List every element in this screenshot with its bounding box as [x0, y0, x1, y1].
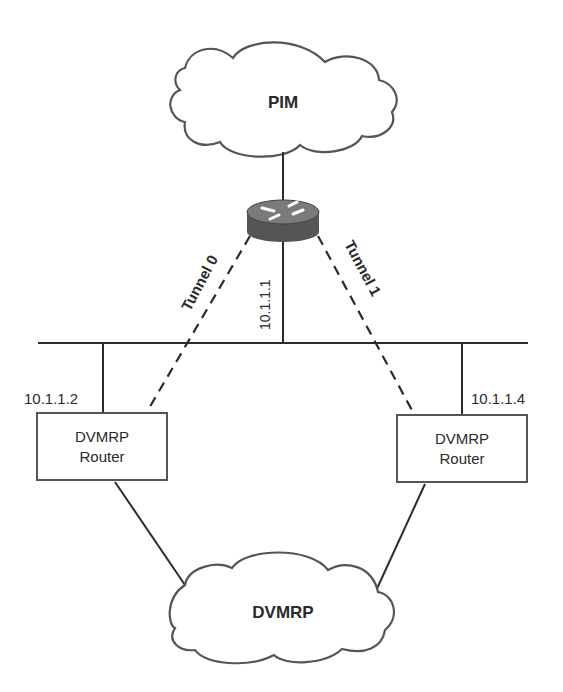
pim-label: PIM [268, 93, 298, 112]
left-router-ip: 10.1.1.2 [24, 390, 78, 407]
right-router-ip: 10.1.1.4 [471, 390, 525, 407]
right-router-cloud-link [375, 484, 425, 593]
tunnel-1-label: Tunnel 1 [341, 237, 384, 298]
tunnel-0-label: Tunnel 0 [178, 252, 221, 313]
dvmrp-cloud: DVMRP [170, 553, 394, 664]
pim-cloud: PIM [170, 42, 396, 156]
dvmrp-cloud-label: DVMRP [252, 603, 313, 622]
left-router-line2: Router [79, 448, 124, 465]
left-router-line1: DVMRP [75, 428, 129, 445]
network-diagram: PIM 10.1.1.1 Tunnel 0 Tunnel 1 10.1.1.2 … [0, 0, 563, 692]
right-router-line2: Router [439, 450, 484, 467]
router-icon [247, 200, 319, 242]
left-dvmrp-router: DVMRP Router [37, 413, 167, 480]
central-router-ip: 10.1.1.1 [257, 279, 273, 330]
right-dvmrp-router: DVMRP Router [397, 415, 527, 482]
right-router-line1: DVMRP [435, 430, 489, 447]
left-router-cloud-link [115, 482, 185, 585]
tunnel-0-line [148, 236, 250, 410]
